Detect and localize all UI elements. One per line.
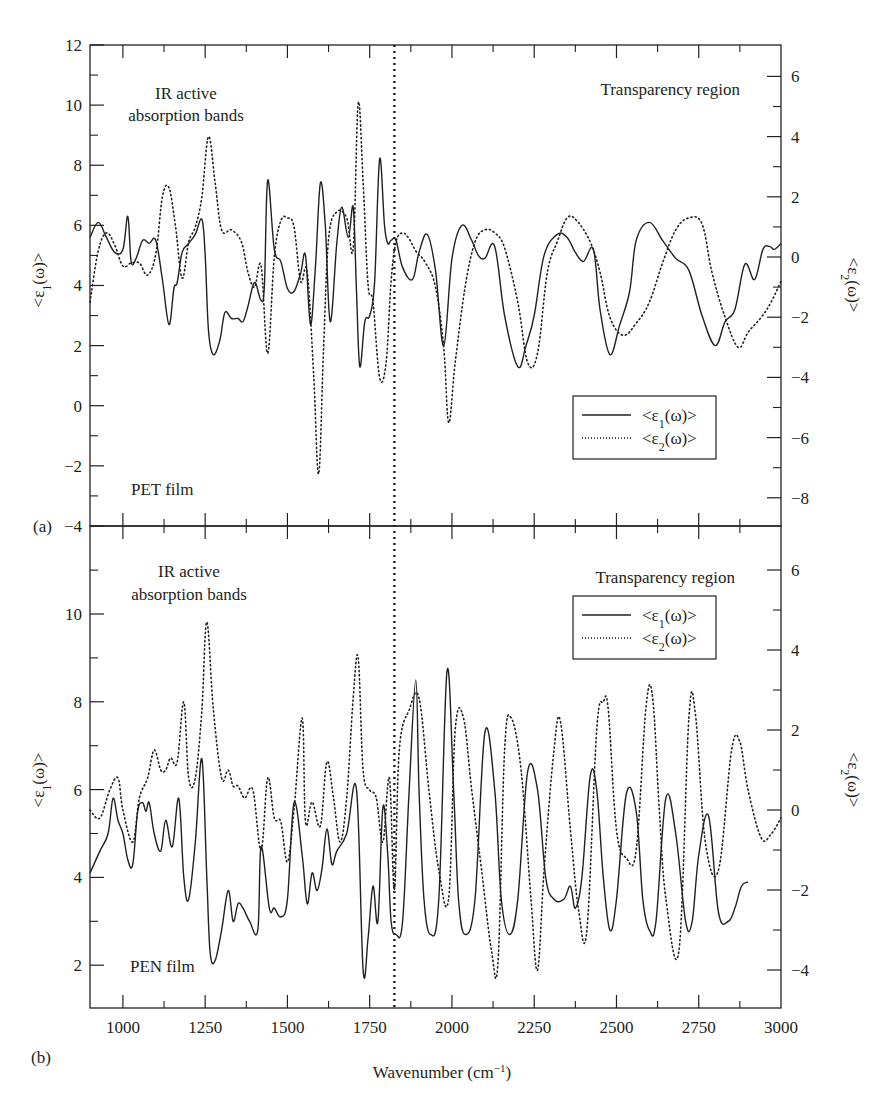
panel-b-right-ylabel: <ε2(ω)> <box>838 753 863 808</box>
svg-text:2: 2 <box>74 337 83 356</box>
svg-text:−4: −4 <box>64 517 83 536</box>
panel-b-transparency-annotation: Transparency region <box>595 568 735 587</box>
svg-text:0: 0 <box>791 248 800 267</box>
panel-b-eps1-line <box>90 668 748 978</box>
svg-text:−8: −8 <box>791 489 809 508</box>
svg-text:2500: 2500 <box>599 1018 633 1037</box>
svg-text:4: 4 <box>74 868 83 887</box>
svg-text:2: 2 <box>791 188 800 207</box>
svg-text:3000: 3000 <box>764 1018 798 1037</box>
svg-text:4: 4 <box>791 641 800 660</box>
svg-text:−4: −4 <box>791 368 810 387</box>
figure-canvas: −4−2024681012−8−6−4−20246 IR active abso… <box>0 0 891 1097</box>
svg-text:6: 6 <box>74 216 83 235</box>
svg-text:1000: 1000 <box>106 1018 140 1037</box>
svg-text:−2: −2 <box>791 308 809 327</box>
svg-text:−6: −6 <box>791 429 809 448</box>
panel-b-eps2-line <box>90 622 781 979</box>
svg-text:6: 6 <box>791 561 800 580</box>
panel-a-ir-annotation-line1: IR active <box>155 84 217 103</box>
svg-text:2: 2 <box>791 721 800 740</box>
svg-text:−2: −2 <box>64 457 82 476</box>
panel-b-left-ylabel: <ε1(ω)> <box>29 753 54 808</box>
svg-text:8: 8 <box>74 693 83 712</box>
panel-a-film-label: PET film <box>131 480 194 499</box>
panel-a-label: (a) <box>33 517 52 536</box>
svg-text:0: 0 <box>791 801 800 820</box>
x-axis-title: Wavenumber (cm−1) <box>373 1062 511 1082</box>
svg-text:2000: 2000 <box>435 1018 469 1037</box>
svg-text:10: 10 <box>65 605 82 624</box>
panel-b-label: (b) <box>31 1048 51 1067</box>
panel-b: 246810−4−2024610001250150017502000225025… <box>31 526 810 1067</box>
panel-b-legend: <ε1(ω)> <ε2(ω)> <box>573 596 716 659</box>
panel-b-plot-area <box>90 622 781 979</box>
panel-a-left-ylabel: <ε1(ω)> <box>29 253 54 308</box>
svg-text:6: 6 <box>791 67 800 86</box>
svg-text:−4: −4 <box>791 961 810 980</box>
panel-b-ir-annotation-line2: absorption bands <box>131 585 247 604</box>
svg-text:1250: 1250 <box>188 1018 222 1037</box>
svg-text:10: 10 <box>65 96 82 115</box>
svg-text:1500: 1500 <box>270 1018 304 1037</box>
panel-a-right-ylabel: <ε2(ω)> <box>838 258 863 313</box>
svg-text:2: 2 <box>74 956 83 975</box>
svg-text:6: 6 <box>74 781 83 800</box>
svg-text:2750: 2750 <box>682 1018 716 1037</box>
svg-text:−2: −2 <box>791 881 809 900</box>
svg-text:0: 0 <box>74 397 83 416</box>
svg-text:1750: 1750 <box>353 1018 387 1037</box>
panel-b-film-label: PEN film <box>130 957 195 976</box>
panel-a: −4−2024681012−8−6−4−20246 IR active abso… <box>33 36 810 536</box>
panel-a-eps1-line <box>90 158 781 368</box>
panel-a-transparency-annotation: Transparency region <box>600 80 740 99</box>
svg-text:12: 12 <box>65 36 82 55</box>
svg-text:4: 4 <box>74 276 83 295</box>
panel-a-ir-annotation-line2: absorption bands <box>128 106 244 125</box>
panel-b-ir-annotation-line1: IR active <box>158 562 220 581</box>
panel-a-legend: <ε1(ω)> <ε2(ω)> <box>573 396 716 459</box>
svg-text:4: 4 <box>791 128 800 147</box>
svg-text:8: 8 <box>74 156 83 175</box>
svg-text:2250: 2250 <box>517 1018 551 1037</box>
